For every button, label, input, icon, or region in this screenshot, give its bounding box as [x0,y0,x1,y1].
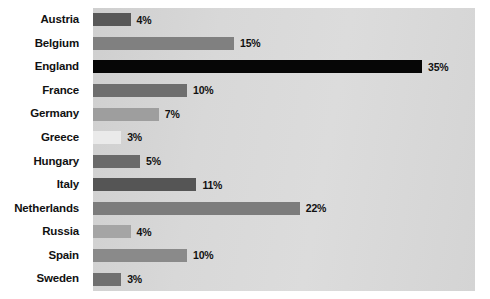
bar-zone: 5% [86,149,490,173]
bar [93,249,187,262]
bar [93,178,196,191]
value-label: 22% [306,203,326,214]
bar [93,60,422,73]
category-label: Austria [0,14,86,26]
bar-zone: 11% [86,173,490,197]
bar-row: Netherlands22% [0,197,490,221]
bar-rows: Austria4%Belgium15%England35%France10%Ge… [0,8,490,291]
category-label: Spain [0,250,86,262]
value-label: 35% [428,62,448,73]
bar-zone: 4% [86,8,490,32]
bar-zone: 4% [86,220,490,244]
bar [93,273,121,286]
category-label: Sweden [0,273,86,285]
bar-row: Greece3% [0,126,490,150]
bar-row: Germany7% [0,102,490,126]
value-label: 10% [193,250,213,261]
bar-row: England35% [0,55,490,79]
category-label: France [0,85,86,97]
value-label: 3% [127,132,142,143]
bar [93,108,159,121]
value-label: 15% [240,38,260,49]
category-label: Russia [0,226,86,238]
bar [93,202,300,215]
category-label: England [0,61,86,73]
bar [93,155,140,168]
bar-row: France10% [0,79,490,103]
bar-zone: 22% [86,197,490,221]
bar-row: Austria4% [0,8,490,32]
bar-row: Belgium15% [0,32,490,56]
category-label: Belgium [0,38,86,50]
category-label: Germany [0,108,86,120]
category-label: Hungary [0,156,86,168]
category-label: Italy [0,179,86,191]
bar-row: Hungary5% [0,149,490,173]
value-label: 5% [146,156,161,167]
bar-zone: 10% [86,244,490,268]
value-label: 3% [127,274,142,285]
bar [93,13,131,26]
value-label: 10% [193,85,213,96]
bar [93,37,234,50]
value-label: 11% [202,180,222,191]
bar-zone: 7% [86,102,490,126]
bar-zone: 3% [86,126,490,150]
value-label: 4% [137,15,152,26]
bar-zone: 10% [86,79,490,103]
bar-row: Spain10% [0,244,490,268]
value-label: 4% [137,227,152,238]
value-label: 7% [165,109,180,120]
bar-chart: Austria4%Belgium15%England35%France10%Ge… [0,0,490,299]
bar-row: Italy11% [0,173,490,197]
category-label: Greece [0,132,86,144]
bar-zone: 3% [86,267,490,291]
bar-zone: 35% [86,55,490,79]
bar-row: Sweden3% [0,267,490,291]
category-label: Netherlands [0,203,86,215]
bar [93,84,187,97]
bar [93,225,131,238]
bar [93,131,121,144]
bar-row: Russia4% [0,220,490,244]
bar-zone: 15% [86,32,490,56]
